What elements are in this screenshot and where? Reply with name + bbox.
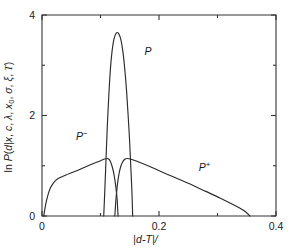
figure-chart-ln-probability: 00.20.4024 PP−P+ |d-T|/ ln P(d|x, c, λ, … bbox=[0, 0, 291, 252]
y-tick-label: 0 bbox=[29, 210, 35, 222]
x-tick-label: 0 bbox=[39, 220, 45, 232]
series-label-Pminus: P− bbox=[76, 129, 88, 142]
x-axis-title-text: |d-T|/ bbox=[133, 233, 158, 245]
series-annotations: PP−P+ bbox=[76, 45, 211, 173]
data-curves bbox=[44, 33, 250, 216]
curve-Pplus bbox=[115, 158, 250, 216]
curve-P bbox=[104, 33, 133, 216]
y-tick-label: 4 bbox=[29, 9, 35, 21]
axis-tick-labels: 00.20.4024 bbox=[29, 9, 283, 232]
x-tick-label: 0.4 bbox=[269, 220, 284, 232]
plot-area: 00.20.4024 PP−P+ bbox=[0, 0, 291, 252]
series-label-P: P bbox=[144, 45, 151, 57]
y-tick-label: 2 bbox=[29, 109, 35, 121]
x-tick-label: 0.2 bbox=[152, 220, 167, 232]
series-label-Pplus: P+ bbox=[199, 160, 211, 173]
x-axis-title: |d-T|/ bbox=[0, 233, 291, 245]
plot-frame bbox=[42, 15, 276, 216]
axis-ticks bbox=[42, 15, 276, 216]
curve-Pminus bbox=[44, 158, 118, 216]
